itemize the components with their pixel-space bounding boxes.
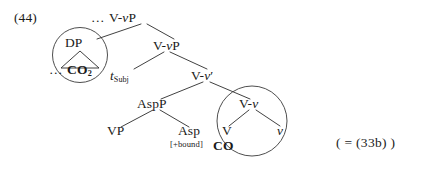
branch-root-to-vshell: [147, 24, 174, 39]
node-verb-root: CO: [213, 139, 234, 153]
dp-complement-subscript: 2: [88, 69, 92, 78]
branch-aspp-to-vp: [121, 110, 153, 127]
verb-root-text: CO: [213, 138, 234, 153]
node-dp: DP: [65, 36, 82, 50]
branch-root-to-dp: [97, 24, 141, 39]
cross-reference: ( = (33b) ): [336, 136, 395, 150]
node-vp: VP: [107, 124, 124, 138]
node-aspp: AspP: [137, 97, 167, 111]
syntax-tree-figure: (44) … V-vP DP … CO2 V-vP tSubj V-v′ Asp…: [0, 0, 424, 171]
node-v-bar: V-v′: [191, 69, 213, 83]
branch-vbar-to-aspp: [161, 82, 203, 99]
node-verb: V: [222, 124, 232, 138]
branch-vhead-to-v: [229, 110, 249, 126]
dp-complement-text: CO: [67, 62, 88, 77]
little-v-text: v: [277, 123, 283, 138]
node-root-v-vP: … V-vP: [91, 11, 136, 25]
example-number: (44): [14, 11, 37, 25]
node-dp-complement: … CO2: [49, 63, 92, 77]
dp-ellipsis: …: [49, 62, 64, 77]
root-ellipsis: …: [91, 10, 106, 25]
branch-vshell-to-vbar: [170, 52, 207, 69]
trace-subscript: Subj: [114, 75, 129, 84]
root-label: V-vP: [109, 10, 136, 25]
node-trace-subject: tSubj: [110, 69, 129, 83]
branch-vshell-to-trace: [134, 52, 164, 69]
node-little-v: v: [277, 124, 283, 138]
node-v-vP-shell: V-vP: [153, 39, 180, 53]
node-v-v-head: V-v: [239, 97, 258, 111]
node-asp: Asp: [178, 124, 200, 138]
asp-feature-bound: [+bound]: [170, 140, 203, 149]
